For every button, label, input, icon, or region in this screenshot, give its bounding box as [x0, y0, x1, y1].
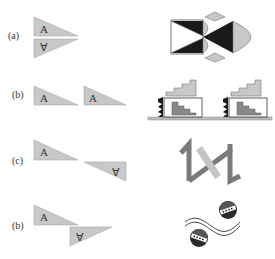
repeated-stairs-translation-icon — [148, 80, 272, 120]
svg-text:A: A — [40, 146, 48, 158]
translation-triangles: A A — [34, 86, 126, 105]
letter-a-inverted: ∀ — [40, 41, 48, 53]
reflection-triangles: A ∀ — [34, 17, 78, 58]
symmetry-figure: A ∀ A A — [0, 0, 275, 259]
rotation-triangles: A ∀ — [34, 140, 126, 181]
svg-text:A: A — [40, 92, 48, 104]
glide-triangles: A ∀ — [34, 205, 112, 246]
letter-a: A — [40, 23, 48, 35]
wave-and-balls-glide-icon — [185, 198, 240, 247]
rotated-zigzag-pattern-icon — [180, 143, 242, 183]
svg-text:∀: ∀ — [112, 166, 120, 178]
svg-text:A: A — [89, 92, 97, 104]
svg-text:A: A — [40, 211, 48, 223]
svg-text:∀: ∀ — [76, 231, 84, 243]
bowtie-reflection-pattern-icon — [171, 12, 251, 62]
